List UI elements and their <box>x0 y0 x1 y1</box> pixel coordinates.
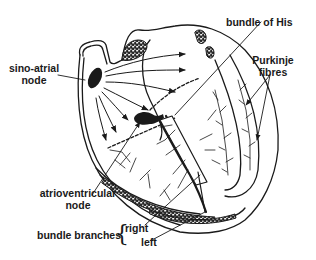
sino-atrial-node <box>85 65 105 90</box>
label-text: Purkinje <box>248 54 298 66</box>
label-text: bundle of His <box>226 16 293 28</box>
label-sino-atrial-node: sino-atrial node <box>4 62 64 86</box>
label-text: sino-atrial <box>4 62 64 74</box>
fat-deposit <box>195 30 206 44</box>
label-text: left <box>141 236 157 248</box>
label-atrioventricular-node: atrioventricular node <box>36 187 120 211</box>
label-text: atrioventricular <box>36 187 120 199</box>
label-text: fibres <box>248 66 298 78</box>
label-bundle-branches: bundle branches <box>37 229 121 241</box>
heart-illustration <box>0 0 316 260</box>
label-text: node <box>36 199 120 211</box>
heart-conduction-diagram: sino-atrial node bundle of His Purkinje … <box>0 0 316 260</box>
label-right-branch: right <box>125 222 148 234</box>
label-text: right <box>125 222 148 234</box>
label-text: node <box>4 74 64 86</box>
label-text: bundle branches <box>37 229 121 241</box>
label-left-branch: left <box>141 236 157 248</box>
fat-deposit <box>206 47 214 59</box>
label-purkinje-fibres: Purkinje fibres <box>248 54 298 78</box>
label-bundle-of-his: bundle of His <box>226 16 293 28</box>
